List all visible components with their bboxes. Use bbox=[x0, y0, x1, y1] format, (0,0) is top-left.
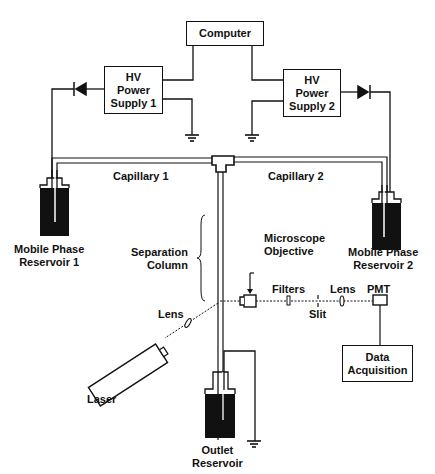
hv-supply-1-box: HV Power Supply 1 bbox=[104, 66, 163, 114]
lens-icon bbox=[340, 296, 344, 306]
hv-supply-1-line3: Supply 1 bbox=[111, 97, 157, 110]
diode-icon bbox=[74, 82, 86, 96]
outlet-reservoir-vessel bbox=[205, 372, 235, 438]
outlet-reservoir-label: Outlet Reservoir bbox=[192, 444, 243, 470]
hv-supply-2-line2: Power bbox=[295, 87, 328, 100]
lens-icon bbox=[184, 318, 192, 329]
filter-icon bbox=[287, 296, 290, 305]
ground-icon bbox=[247, 441, 261, 447]
laser-label: Laser bbox=[87, 393, 116, 406]
detect-lens-label: Lens bbox=[330, 283, 356, 296]
wire-hv1-ground bbox=[163, 99, 192, 135]
microscope-objective-icon bbox=[240, 295, 256, 307]
ground-icon bbox=[245, 135, 259, 141]
laser-lens-label: Lens bbox=[158, 308, 184, 321]
ground-icon bbox=[185, 135, 199, 141]
optical-path bbox=[165, 301, 373, 338]
capillary-1-label: Capillary 1 bbox=[113, 170, 169, 183]
tee-junction bbox=[212, 156, 234, 172]
data-acquisition-line1: Data bbox=[366, 351, 390, 364]
filters-label: Filters bbox=[272, 283, 305, 296]
slit-label: Slit bbox=[309, 308, 326, 321]
wire-computer-hv1 bbox=[163, 45, 193, 80]
computer-label: Computer bbox=[199, 27, 251, 40]
pmt-icon bbox=[373, 295, 387, 305]
reservoir-2-vessel bbox=[372, 185, 401, 250]
wire-computer-hv2 bbox=[252, 45, 283, 80]
reservoir-1-vessel bbox=[40, 170, 69, 236]
data-acquisition-box: Data Acquisition bbox=[342, 345, 413, 382]
brace-separation-column bbox=[197, 215, 205, 301]
data-acquisition-line2: Acquisition bbox=[348, 364, 408, 377]
reservoir-2-label: Mobile Phase Reservoir 2 bbox=[348, 246, 418, 272]
diagram-lines bbox=[0, 0, 435, 474]
computer-box: Computer bbox=[186, 21, 264, 46]
microscope-objective-label: Microscope Objective bbox=[264, 232, 325, 258]
hv-supply-1-line1: HV bbox=[126, 71, 141, 84]
reservoir-1-label: Mobile Phase Reservoir 1 bbox=[14, 243, 84, 269]
diagram-canvas: Computer HV Power Supply 1 HV Power Supp… bbox=[0, 0, 435, 474]
separation-column-label: Separation Column bbox=[131, 246, 188, 272]
hv-supply-2-box: HV Power Supply 2 bbox=[283, 69, 341, 117]
capillary-2-label: Capillary 2 bbox=[268, 170, 324, 183]
hv-supply-2-line3: Supply 2 bbox=[289, 100, 335, 113]
hv-supply-1-line2: Power bbox=[117, 84, 150, 97]
wire-hv2-ground bbox=[252, 101, 283, 135]
hv-supply-2-line1: HV bbox=[304, 74, 319, 87]
diode-icon bbox=[358, 85, 370, 99]
pmt-label: PMT bbox=[367, 283, 390, 296]
arrow-icon bbox=[247, 289, 253, 294]
